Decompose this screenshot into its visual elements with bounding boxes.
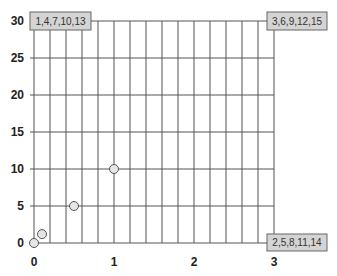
y-tick-label: 25 <box>11 51 25 65</box>
y-tick-label: 30 <box>11 14 25 28</box>
data-point-marker <box>70 202 79 211</box>
y-tick-label: 10 <box>11 162 25 176</box>
callout-bottom-right: 2,5,8,11,14 <box>267 234 327 251</box>
x-tick-label: 3 <box>271 255 278 269</box>
x-tick-label: 0 <box>31 255 38 269</box>
data-point-marker <box>38 230 47 239</box>
x-axis-labels: 0123 <box>31 255 278 269</box>
y-axis-labels: 051015202530 <box>11 14 25 250</box>
y-tick-label: 15 <box>11 125 25 139</box>
x-tick-label: 2 <box>191 255 198 269</box>
y-tick-label: 20 <box>11 88 25 102</box>
callout-text: 1,4,7,10,13 <box>35 16 85 27</box>
y-tick-label: 0 <box>17 236 24 250</box>
callout-top-left: 1,4,7,10,13 <box>30 12 91 30</box>
scatter-chart: 051015202530 0123 1,4,7,10,133,6,9,12,15… <box>0 0 337 276</box>
data-point-marker <box>30 239 39 248</box>
y-tick-label: 5 <box>17 199 24 213</box>
callout-text: 2,5,8,11,14 <box>272 237 322 248</box>
callout-text: 3,6,9,12,15 <box>272 16 322 27</box>
x-tick-label: 1 <box>111 255 118 269</box>
data-point-marker <box>110 165 119 174</box>
grid-lines <box>30 21 274 243</box>
callout-top-right: 3,6,9,12,15 <box>267 12 327 30</box>
